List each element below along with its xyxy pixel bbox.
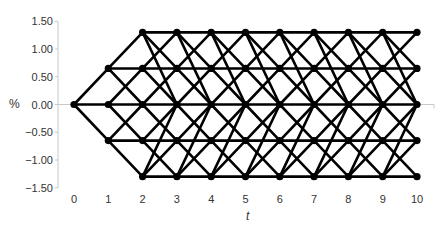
- tree-node: [413, 65, 420, 72]
- tree-node: [311, 173, 318, 180]
- y-tick-label: 0.00: [32, 99, 53, 111]
- tree-node: [105, 101, 112, 108]
- tree-node: [208, 137, 215, 144]
- y-tick-label: 1.50: [32, 15, 53, 27]
- tree-node: [345, 29, 352, 36]
- tree-node: [139, 101, 146, 108]
- tree-node: [173, 173, 180, 180]
- tree-node: [139, 65, 146, 72]
- y-tick-label: −1.50: [25, 182, 53, 194]
- tree-node: [311, 65, 318, 72]
- y-tick-label: 0.50: [32, 71, 53, 83]
- x-tick-label: 3: [174, 193, 180, 205]
- tree-node: [379, 101, 386, 108]
- y-axis-title: %: [9, 97, 20, 111]
- tree-node: [208, 29, 215, 36]
- tree-node: [105, 137, 112, 144]
- tree-edge: [74, 105, 108, 141]
- tree-edge: [74, 68, 108, 104]
- tree-node: [242, 101, 249, 108]
- tree-node: [139, 29, 146, 36]
- x-tick-label: 4: [208, 193, 214, 205]
- tree-node: [276, 173, 283, 180]
- x-axis-title: t: [246, 209, 250, 223]
- tree-node: [379, 29, 386, 36]
- tree-node: [70, 101, 77, 108]
- x-tick-label: 8: [345, 193, 351, 205]
- tree-node: [311, 101, 318, 108]
- y-tick-label: −0.50: [25, 126, 53, 138]
- tree-node: [345, 137, 352, 144]
- tree-node: [379, 173, 386, 180]
- tree-node: [242, 137, 249, 144]
- tree-node: [242, 65, 249, 72]
- x-tick-label: 6: [277, 193, 283, 205]
- tree-node: [276, 65, 283, 72]
- tree-node: [311, 137, 318, 144]
- x-tick-label: 0: [71, 193, 77, 205]
- tree-node: [379, 65, 386, 72]
- x-tick-label: 2: [140, 193, 146, 205]
- y-tick-label: −1.00: [25, 154, 53, 166]
- tree-node: [413, 29, 420, 36]
- tree-node: [173, 137, 180, 144]
- tree-node: [276, 137, 283, 144]
- tree-node: [276, 101, 283, 108]
- tree-node: [413, 173, 420, 180]
- tree-node: [413, 137, 420, 144]
- tree-edge: [108, 141, 142, 177]
- tree-node: [242, 29, 249, 36]
- tree-node: [139, 173, 146, 180]
- x-tick-label: 9: [380, 193, 386, 205]
- tree-node: [139, 137, 146, 144]
- tree-node: [345, 101, 352, 108]
- y-tick-label: 1.00: [32, 43, 53, 55]
- x-tick-label: 5: [242, 193, 248, 205]
- tree-node: [242, 173, 249, 180]
- tree-node: [208, 173, 215, 180]
- tree-node: [208, 65, 215, 72]
- tree-node: [105, 65, 112, 72]
- trinomial-tree-chart: 1.501.000.500.00−0.50−1.00−1.50012345678…: [0, 0, 444, 229]
- tree-node: [276, 29, 283, 36]
- tree-node: [173, 101, 180, 108]
- tree-node: [413, 101, 420, 108]
- x-tick-label: 7: [311, 193, 317, 205]
- tree-node: [311, 29, 318, 36]
- tree-node: [379, 137, 386, 144]
- tree-node: [208, 101, 215, 108]
- tree-node: [173, 65, 180, 72]
- tree-node: [345, 65, 352, 72]
- tree-edge: [108, 32, 142, 68]
- x-tick-label: 10: [411, 193, 423, 205]
- x-tick-label: 1: [105, 193, 111, 205]
- tree-node: [345, 173, 352, 180]
- tree-node: [173, 29, 180, 36]
